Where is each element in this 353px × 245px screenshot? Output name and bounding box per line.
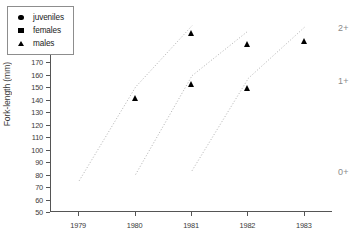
data-point-males	[301, 21, 307, 39]
x-tick-mark	[247, 212, 248, 216]
y-tick-label: 90	[35, 158, 43, 167]
age-class-0plus: 0+	[338, 167, 349, 177]
y-tick-mark	[46, 175, 50, 176]
x-tick-mark	[78, 212, 79, 216]
y-tick-label: 50	[35, 208, 43, 217]
y-tick-mark	[46, 75, 50, 76]
triangle-marker-icon	[132, 78, 138, 101]
y-tick-mark	[46, 212, 50, 213]
x-tick-mark	[304, 212, 305, 216]
x-tick-label: 1982	[240, 221, 256, 230]
plot-area	[50, 12, 332, 212]
chart-legend: juveniles females males	[7, 6, 74, 55]
triangle-marker-icon	[188, 64, 194, 87]
triangle-marker-icon	[14, 41, 28, 46]
data-point-males	[132, 78, 138, 96]
fork-length-scatter-chart: Fork-length (mm) 21020019018017016015014…	[0, 0, 353, 245]
y-tick-mark	[46, 87, 50, 88]
x-tick-label: 1980	[127, 221, 143, 230]
y-tick-label: 60	[35, 195, 43, 204]
y-tick-mark	[46, 187, 50, 188]
triangle-marker-icon	[244, 24, 250, 47]
y-tick-mark	[46, 200, 50, 201]
y-tick-label: 120	[31, 120, 43, 129]
y-tick-mark	[46, 162, 50, 163]
cohort-1980	[136, 31, 249, 175]
y-tick-label: 110	[32, 133, 43, 142]
x-tick-mark	[135, 212, 136, 216]
y-tick-label: 70	[35, 183, 43, 192]
legend-label: males	[33, 39, 54, 48]
square-marker-icon	[14, 28, 28, 33]
legend-item-males: males	[14, 37, 64, 50]
legend-item-females: females	[14, 24, 64, 37]
y-tick-label: 150	[31, 83, 43, 92]
y-tick-mark	[46, 125, 50, 126]
circle-marker-icon	[14, 15, 28, 21]
triangle-marker-icon	[244, 68, 250, 91]
y-tick-label: 100	[31, 145, 43, 154]
x-tick-label: 1981	[183, 221, 199, 230]
x-tick-label: 1979	[70, 221, 86, 230]
data-point-males	[244, 68, 250, 86]
age-class-1plus: 1+	[338, 76, 349, 86]
legend-label: females	[33, 26, 61, 35]
y-tick-label: 170	[31, 58, 43, 67]
y-tick-mark	[46, 100, 50, 101]
data-point-males	[188, 64, 194, 82]
triangle-marker-icon	[188, 13, 194, 36]
legend-label: juveniles	[33, 13, 64, 22]
triangle-marker-icon	[301, 21, 307, 44]
data-point-males	[188, 13, 194, 31]
age-class-2plus: 2+	[338, 23, 349, 33]
y-tick-label: 130	[31, 108, 43, 117]
y-tick-label: 80	[35, 170, 43, 179]
cohort-1979	[79, 26, 192, 181]
y-tick-mark	[46, 150, 50, 151]
legend-item-juveniles: juveniles	[14, 11, 64, 24]
cohort-1981	[192, 27, 305, 171]
y-tick-label: 160	[31, 70, 43, 79]
y-axis-title: Fork-length (mm)	[2, 62, 18, 126]
x-tick-label: 1983	[296, 221, 312, 230]
y-tick-mark	[46, 112, 50, 113]
data-point-males	[244, 24, 250, 42]
y-tick-mark	[46, 137, 50, 138]
y-tick-mark	[46, 62, 50, 63]
y-tick-label: 140	[31, 95, 43, 104]
x-tick-mark	[191, 212, 192, 216]
